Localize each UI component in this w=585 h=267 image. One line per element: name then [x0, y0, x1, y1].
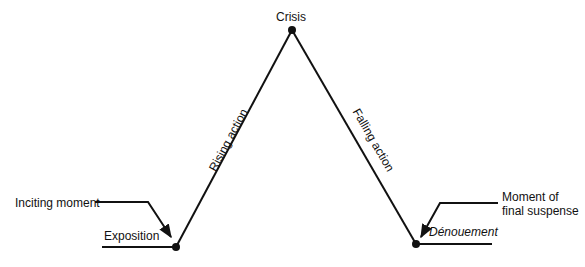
crisis-label: Crisis: [276, 10, 306, 24]
falling-action-line: [292, 30, 416, 244]
denouement-point: [412, 240, 420, 248]
final-suspense-label-2: final suspense: [502, 204, 579, 218]
denouement-label: Dénouement: [429, 225, 498, 239]
final-suspense-label-1: Moment of: [502, 190, 559, 204]
exposition-point: [172, 243, 180, 251]
exposition-label: Exposition: [104, 229, 159, 243]
crisis-point: [288, 26, 296, 34]
inciting-moment-label: Inciting moment: [15, 196, 100, 210]
